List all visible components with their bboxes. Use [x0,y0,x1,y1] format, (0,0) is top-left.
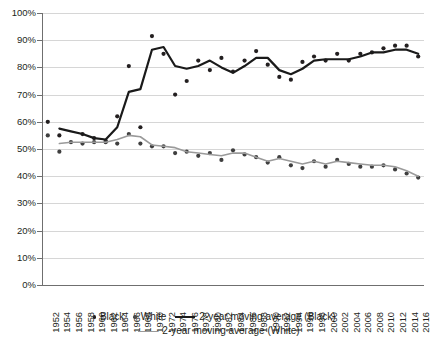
data-point [196,59,200,63]
legend-dot-icon [93,315,96,318]
legend-row-secondary: 2-year moving average (White) [0,324,428,338]
x-axis-line [42,285,424,286]
y-axis-tick-label: 100% [12,8,36,18]
legend-line-icon [138,331,158,332]
y-axis-tick-label: 10% [17,253,36,263]
data-point [46,120,50,124]
series-line [59,135,418,176]
y-axis-tick-label: 60% [17,117,36,127]
legend-row-primary: Black White 2-year moving average (Black… [0,310,428,324]
data-point [208,68,212,72]
data-point [115,114,119,118]
data-point [173,93,177,97]
data-point [219,158,223,162]
data-point [46,133,50,137]
data-point [185,79,189,83]
y-axis-tick-label: 90% [17,35,36,45]
legend-item-moving-average-white: 2-year moving average (White) [138,324,299,338]
data-point [161,52,165,56]
data-point [289,163,293,167]
data-point [289,78,293,82]
chart-legend: Black White 2-year moving average (Black… [0,310,428,338]
y-axis-tick-label: 30% [17,198,36,208]
data-point [115,141,119,145]
data-point [324,165,328,169]
data-point [393,44,397,48]
legend-label: White [141,310,167,324]
y-axis-tick-label: 20% [17,226,36,236]
data-point [266,63,270,67]
y-axis-tick-label: 70% [17,90,36,100]
data-point [416,54,420,58]
data-point [219,56,223,60]
legend-label: 2-year moving average (White) [162,324,299,338]
series-line [59,47,418,139]
data-point [196,154,200,158]
y-axis-tick-label: 40% [17,171,36,181]
data-point [335,52,339,56]
data-point [405,44,409,48]
legend-item-black: Black [93,310,125,324]
data-point [231,148,235,152]
data-point [254,49,258,53]
data-point [312,54,316,58]
legend-label: Black [100,310,124,324]
legend-label: 2-year moving average (Black) [199,310,335,324]
y-axis-tick-label: 50% [17,144,36,154]
y-axis-tick-mark [37,285,42,286]
data-point [358,165,362,169]
data-point [150,34,154,38]
data-point [57,150,61,154]
legend-item-white: White [133,310,166,324]
legend-dot-icon [133,315,136,318]
legend-line-icon [175,316,195,318]
chart-series-layer [42,13,424,285]
y-axis-tick-label: 80% [17,62,36,72]
data-point [300,166,304,170]
data-point [138,141,142,145]
legend-item-moving-average-black: 2-year moving average (Black) [175,310,335,324]
data-point [173,151,177,155]
data-point [381,46,385,50]
data-point [277,75,281,79]
data-point [242,59,246,63]
data-point [300,60,304,64]
data-point [57,133,61,137]
data-point [127,64,131,68]
data-point [138,125,142,129]
